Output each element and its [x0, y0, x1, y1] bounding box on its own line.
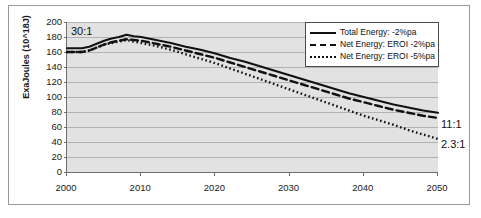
- annotation-dotted-end-eroi: 2.3:1: [441, 138, 465, 150]
- chart-figure: ExaJoules (10^18J) 020406080100120140160…: [0, 0, 481, 218]
- legend-label: Net Energy: EROI -2%pa: [340, 40, 435, 49]
- y-tick-label: 40: [36, 137, 62, 147]
- legend-item-3: Net Energy: EROI -5%pa: [310, 51, 434, 62]
- x-tick-mark: [66, 172, 67, 176]
- y-tick-label: 200: [36, 17, 62, 27]
- x-tick-label: 2020: [192, 182, 236, 193]
- y-tick-label: 20: [36, 152, 62, 162]
- legend-swatch-dotted: [310, 52, 336, 61]
- legend-swatch-solid: [310, 28, 336, 37]
- y-tick-label: 120: [36, 77, 62, 87]
- legend-item-2: Net Energy: EROI -2%pa: [310, 39, 434, 50]
- x-tick-mark: [289, 172, 290, 176]
- x-tick-label: 2010: [118, 182, 162, 193]
- x-tick-label: 2000: [44, 182, 88, 193]
- legend-swatch-dashed: [310, 40, 336, 49]
- y-tick-label: 60: [36, 122, 62, 132]
- y-tick-label: 80: [36, 107, 62, 117]
- y-axis-ticks: 020406080100120140160180200: [34, 22, 62, 172]
- y-tick-label: 0: [36, 167, 62, 177]
- x-tick-mark: [140, 172, 141, 176]
- x-tick-label: 2050: [415, 182, 459, 193]
- annotation-dashed-end-eroi: 11:1: [441, 118, 462, 130]
- annotation-start-eroi: 30:1: [71, 25, 92, 37]
- x-tick-mark: [363, 172, 364, 176]
- legend-item-1: Total Energy: -2%pa: [310, 27, 434, 38]
- y-tick-label: 140: [36, 62, 62, 72]
- x-tick-mark: [214, 172, 215, 176]
- y-axis-title: ExaJoules (10^18J): [21, 0, 31, 127]
- x-tick-mark: [437, 172, 438, 176]
- legend-label: Net Energy: EROI -5%pa: [340, 52, 435, 61]
- y-tick-label: 100: [36, 92, 62, 102]
- y-tick-label: 180: [36, 32, 62, 42]
- legend-label: Total Energy: -2%pa: [340, 28, 417, 37]
- x-tick-label: 2040: [341, 182, 385, 193]
- x-axis-ticks: 200020102020203020402050: [66, 172, 437, 198]
- y-tick-label: 160: [36, 47, 62, 57]
- x-tick-label: 2030: [267, 182, 311, 193]
- chart-legend: Total Energy: -2%paNet Energy: EROI -2%p…: [305, 22, 439, 67]
